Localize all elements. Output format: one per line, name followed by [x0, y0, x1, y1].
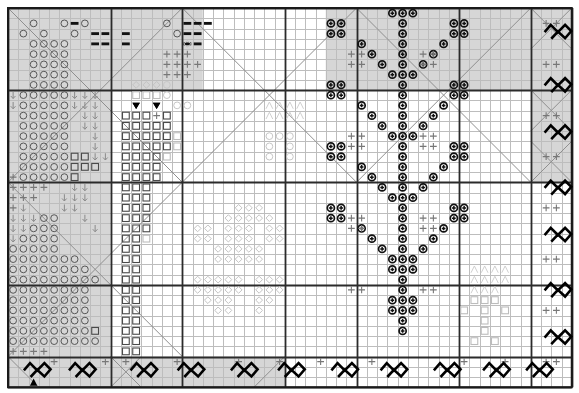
pattern-grid-canvas[interactable] — [0, 0, 579, 393]
cross-stitch-chart[interactable]: Cross Stitch Pattern Chart — [0, 0, 579, 393]
